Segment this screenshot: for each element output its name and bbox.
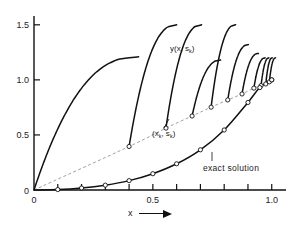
node-marker <box>252 86 256 90</box>
y-axis-tick-label: 0 <box>24 186 29 196</box>
exact-solution-marker <box>56 187 60 191</box>
exact-solution-marker <box>175 162 179 166</box>
shooting-curve <box>211 25 235 107</box>
node-marker <box>226 98 230 102</box>
shooting-curve <box>129 25 177 147</box>
exact-solution-marker <box>270 78 274 82</box>
exact-solution-marker <box>222 128 226 132</box>
shooting-curve <box>228 45 249 100</box>
scientific-chart: 00.51.01.500.51.0 <box>0 0 294 229</box>
exact-solution-marker <box>198 148 202 152</box>
y-axis-tick-label: 1.0 <box>16 75 29 85</box>
x-axis-tick-label: 1.0 <box>265 195 278 205</box>
shooting-curve <box>34 57 139 190</box>
x-axis-tick-label: 0.5 <box>147 195 160 205</box>
exact-solution-marker <box>127 179 131 183</box>
node-marker <box>190 114 194 118</box>
figure-container: 00.51.01.500.51.0 y(x, sk) (xk, sk) exac… <box>0 0 294 229</box>
exact-solution-marker <box>258 85 262 89</box>
x-axis-tick-label: 0 <box>31 195 36 205</box>
exact-solution-marker <box>151 172 155 176</box>
shooting-curve <box>166 25 202 128</box>
node-marker <box>127 144 131 148</box>
node-marker <box>209 105 213 109</box>
node-marker <box>240 92 244 96</box>
exact-solution-marker <box>246 100 250 104</box>
exact-solution-marker <box>103 183 107 187</box>
exact-solution-marker <box>79 186 83 190</box>
y-axis-tick-label: 0.5 <box>16 130 29 140</box>
y-axis-tick-label: 1.5 <box>16 20 29 30</box>
